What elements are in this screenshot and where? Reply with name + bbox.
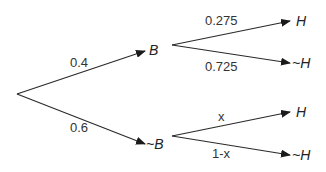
probability-label-b-h: 0.275 [205, 13, 238, 28]
node-label-b-h: H [296, 13, 307, 29]
branch-b-h: 0.275 H [172, 13, 307, 45]
probability-label-not-b-not-h: 1-x [212, 146, 231, 161]
branch-b: 0.4 B [17, 42, 158, 94]
node-label-b-not-h: ~H [292, 55, 311, 71]
node-label-not-b-not-h: ~H [292, 147, 311, 163]
probability-label-not-b: 0.6 [70, 120, 88, 135]
probability-label-b-not-h: 0.725 [205, 59, 238, 74]
branch-not-b-not-h: 1-x ~H [172, 136, 311, 163]
branch-not-b: 0.6 ~B [17, 94, 164, 152]
probability-label-b: 0.4 [70, 55, 88, 70]
node-label-not-b-h: H [296, 104, 307, 120]
node-label-not-b: ~B [146, 136, 164, 152]
edge-not-b-to-h [172, 112, 290, 136]
branch-not-b-h: x H [172, 104, 307, 136]
edge-not-b-to-not-h [172, 136, 290, 155]
branch-b-not-h: 0.725 ~H [172, 45, 311, 74]
node-label-b: B [149, 42, 158, 58]
probability-tree-diagram: 0.4 B 0.6 ~B 0.275 H 0.725 ~H x H 1-x ~H [0, 0, 326, 172]
probability-label-not-b-h: x [218, 109, 225, 124]
edge-root-to-not-b [17, 94, 145, 144]
